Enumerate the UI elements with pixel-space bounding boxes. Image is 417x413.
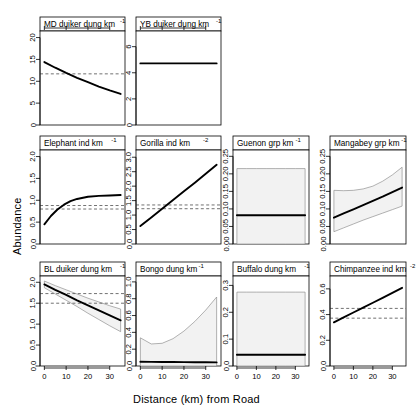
y-tick-label-guenon-5: 0.25 (222, 149, 231, 164)
y-tick-label-yb-duiker-3: 6 (125, 45, 134, 49)
y-tick-label-bl-duiker-4: 2.0 (29, 277, 38, 288)
y-tick-label-mangabey-2: 0.10 (319, 202, 328, 217)
x-tick-label-chimpanzee-1: 10 (349, 372, 357, 381)
multi-panel-chart: MD duiker dung km-105101520YB duiker dun… (0, 0, 417, 413)
panel-strip-label-chimpanzee: Chimpanzee ind km (334, 265, 407, 274)
panel-strip-label-elephant: Elephant ind km (44, 139, 103, 148)
y-tick-label-mangabey-3: 0.15 (319, 184, 328, 199)
y-tick-label-guenon-1: 0.05 (222, 219, 231, 234)
panel-strip-label-bl-duiker: BL duiker dung km (44, 265, 112, 274)
x-tick-label-bl-duiker-3: 30 (106, 372, 114, 381)
panel-bl-duiker: BL duiker dung km-10.00.51.01.52.0010203… (29, 262, 126, 381)
panel-strip-exponent-bongo: -1 (199, 263, 205, 269)
y-tick-label-guenon-0: 0.00 (222, 237, 231, 252)
y-tick-label-yb-duiker-1: 2 (125, 97, 134, 101)
y-tick-label-md-duiker-4: 20 (29, 33, 38, 41)
y-tick-label-bongo-1: 0.2 (125, 344, 134, 355)
y-tick-label-bongo-5: 1.0 (125, 277, 134, 288)
y-tick-label-elephant-1: 0.5 (29, 217, 38, 228)
panel-frame-md-duiker (40, 31, 125, 125)
y-tick-label-gorilla-2: 1.0 (125, 210, 134, 221)
panel-strip-exponent-mangabey: -1 (401, 137, 407, 143)
y-tick-label-chimpanzee-3: 0.6 (319, 284, 328, 295)
panel-strip-exponent-chimpanzee: -2 (410, 263, 416, 269)
y-tick-label-md-duiker-0: 0 (29, 123, 38, 127)
y-tick-label-elephant-2: 1.0 (29, 195, 38, 206)
y-tick-label-elephant-0: 0.0 (29, 239, 38, 250)
y-tick-label-bongo-2: 0.4 (125, 327, 134, 338)
panel-strip-label-bongo: Bongo dung km (140, 265, 198, 274)
y-tick-label-buffalo-2: 0.2 (222, 307, 231, 318)
panel-strip-exponent-buffalo: -1 (304, 263, 310, 269)
y-tick-label-gorilla-5: 2.5 (125, 166, 134, 177)
panel-frame-yb-duiker (136, 31, 221, 125)
y-tick-label-buffalo-1: 0.1 (222, 334, 231, 345)
panel-strip-label-gorilla: Gorilla ind km (140, 139, 190, 148)
y-axis-label: Abundance (11, 198, 23, 255)
x-tick-label-bongo-1: 10 (158, 372, 166, 381)
y-tick-label-gorilla-4: 2.0 (125, 181, 134, 192)
panel-strip-label-mangabey: Mangabey grp km (334, 139, 400, 148)
y-tick-label-bl-duiker-3: 1.5 (29, 298, 38, 309)
y-tick-label-bl-duiker-0: 0.0 (29, 361, 38, 372)
panel-buffalo: Buffalo dung km-10.00.10.20.30102030 (222, 262, 311, 381)
y-tick-label-gorilla-3: 1.5 (125, 195, 134, 206)
y-tick-label-gorilla-0: 0.0 (125, 239, 134, 250)
x-axis-label: Distance (km) from Road (133, 393, 260, 405)
x-tick-label-chimpanzee-2: 20 (369, 372, 377, 381)
y-tick-label-guenon-3: 0.15 (222, 184, 231, 199)
panel-strip-exponent-yb-duiker: -1 (216, 18, 222, 24)
y-tick-label-elephant-3: 1.5 (29, 173, 38, 184)
y-tick-label-md-duiker-2: 10 (29, 77, 38, 85)
y-tick-label-bongo-0: 0.0 (125, 361, 134, 372)
panel-guenon: Guenon grp km-10.000.050.100.150.200.25 (222, 136, 310, 251)
x-tick-label-bongo-2: 20 (180, 372, 188, 381)
y-tick-label-md-duiker-1: 5 (29, 101, 38, 105)
x-tick-label-buffalo-1: 10 (252, 372, 260, 381)
panel-ci-band-guenon (237, 169, 305, 244)
panel-strip-exponent-bl-duiker: -1 (120, 263, 126, 269)
y-tick-label-yb-duiker-2: 4 (125, 71, 134, 75)
panel-elephant: Elephant ind km-10.00.51.01.52.0 (29, 136, 126, 249)
y-tick-label-bl-duiker-2: 1.0 (29, 319, 38, 330)
panel-strip-exponent-elephant: -1 (111, 137, 117, 143)
panel-gorilla: Gorilla ind km-20.00.51.01.52.02.53.0 (125, 136, 222, 249)
panel-bongo: Bongo dung km-10.00.20.40.60.81.00102030 (125, 262, 222, 381)
panel-strip-exponent-guenon: -1 (296, 137, 302, 143)
x-tick-label-chimpanzee-0: 0 (332, 372, 336, 381)
y-tick-label-buffalo-3: 0.3 (222, 280, 231, 291)
y-tick-label-mangabey-4: 0.20 (319, 166, 328, 181)
panel-yb-duiker: YB duiker dung km-10246 (125, 17, 222, 127)
x-tick-label-buffalo-0: 0 (235, 372, 239, 381)
y-tick-label-yb-duiker-0: 0 (125, 123, 134, 127)
panel-strip-exponent-gorilla: -2 (203, 137, 209, 143)
x-tick-label-buffalo-3: 30 (291, 372, 299, 381)
y-tick-label-buffalo-0: 0.0 (222, 361, 231, 372)
figure-panel-grid: MD duiker dung km-105101520YB duiker dun… (0, 0, 417, 413)
x-tick-label-bl-duiker-0: 0 (42, 372, 46, 381)
y-tick-label-gorilla-1: 0.5 (125, 224, 134, 235)
panel-fit-line-bongo (140, 362, 216, 363)
x-tick-label-buffalo-2: 20 (272, 372, 280, 381)
y-tick-label-elephant-4: 2.0 (29, 151, 38, 162)
x-tick-label-bl-duiker-2: 20 (84, 372, 92, 381)
panel-mangabey: Mangabey grp km-10.000.050.100.150.200.2… (319, 136, 408, 251)
panel-md-duiker: MD duiker dung km-105101520 (29, 17, 126, 127)
panel-strip-label-guenon: Guenon grp km (237, 139, 294, 148)
x-tick-label-chimpanzee-3: 30 (388, 372, 396, 381)
panel-frame-gorilla (136, 150, 221, 244)
panel-strip-exponent-md-duiker: -1 (120, 18, 126, 24)
y-tick-label-chimpanzee-1: 0.2 (319, 335, 328, 346)
y-tick-label-gorilla-6: 3.0 (125, 152, 134, 163)
y-tick-label-mangabey-5: 0.25 (319, 149, 328, 164)
y-tick-label-bongo-3: 0.6 (125, 310, 134, 321)
y-tick-label-md-duiker-3: 15 (29, 55, 38, 63)
panel-strip-label-buffalo: Buffalo dung km (237, 265, 296, 274)
y-tick-label-mangabey-0: 0.00 (319, 237, 328, 252)
y-tick-label-bongo-4: 0.8 (125, 293, 134, 304)
y-tick-label-chimpanzee-0: 0.0 (319, 361, 328, 372)
x-tick-label-bongo-0: 0 (138, 372, 142, 381)
y-tick-label-bl-duiker-1: 0.5 (29, 340, 38, 351)
panel-chimpanzee: Chimpanzee ind km-20.00.20.40.60102030 (319, 262, 416, 381)
y-tick-label-guenon-2: 0.10 (222, 202, 231, 217)
